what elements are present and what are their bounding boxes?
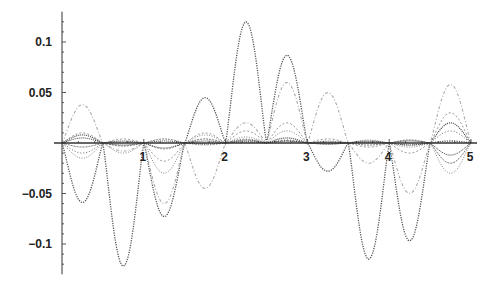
- line-series-8: [62, 138, 471, 155]
- y-tick-label-0.05: 0.05: [29, 86, 53, 100]
- y-tick-label-neg-0.1: −0.1: [28, 237, 52, 251]
- line-series-5: [62, 123, 471, 148]
- plot-series: [62, 22, 471, 266]
- line-series-4: [62, 131, 471, 173]
- x-tick-label-3: 3: [303, 150, 310, 164]
- y-tick-label-neg-0.05: −0.05: [22, 187, 53, 201]
- line-series-3: [62, 113, 471, 161]
- x-tick-label-2: 2: [221, 150, 228, 164]
- y-tick-label-0.1: 0.1: [35, 35, 52, 49]
- chart-canvas: 1 2 3 4 5 0.1 0.05 −0.05 −0.1: [0, 0, 495, 285]
- x-tick-label-4: 4: [385, 150, 392, 164]
- x-tick-label-1: 1: [139, 150, 146, 164]
- x-tick-label-5: 5: [467, 150, 474, 164]
- line-series-1: [62, 22, 471, 266]
- y-minor-ticks: [62, 22, 66, 264]
- axes: [54, 12, 477, 275]
